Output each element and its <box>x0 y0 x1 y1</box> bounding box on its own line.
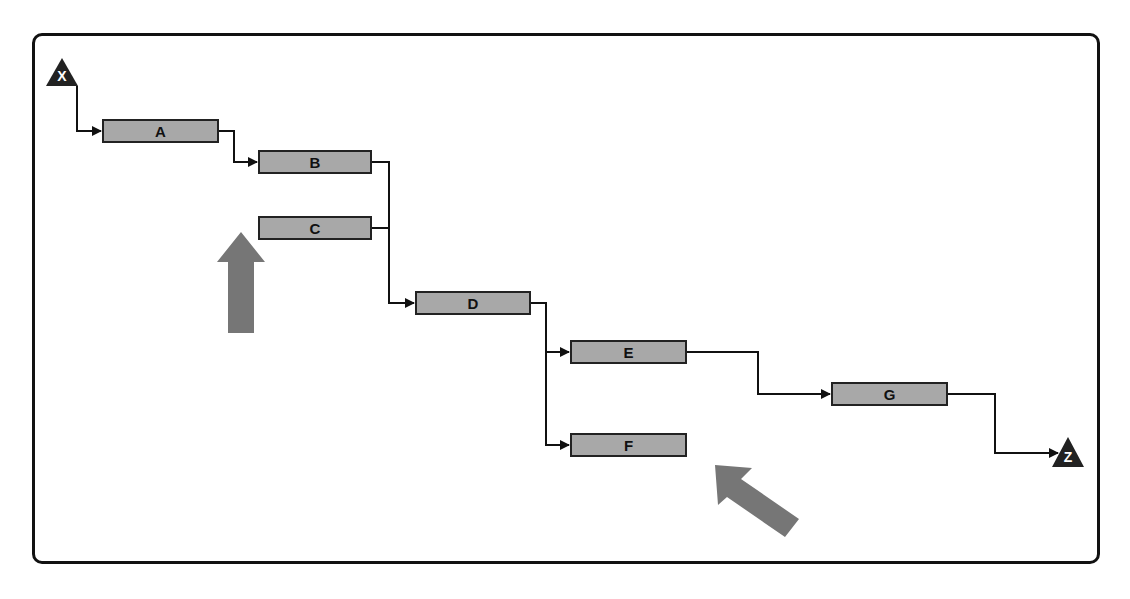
connectors-layer <box>0 0 1130 599</box>
activity-c[interactable]: C <box>258 216 372 240</box>
edge-d-e <box>531 303 569 352</box>
start-label: X <box>52 68 72 84</box>
edge-x-a <box>77 86 101 131</box>
edge-a-b <box>219 131 257 162</box>
edge-d-f <box>546 352 569 445</box>
activity-b[interactable]: B <box>258 150 372 174</box>
activity-a[interactable]: A <box>102 119 219 143</box>
activity-e[interactable]: E <box>570 340 687 364</box>
activity-d[interactable]: D <box>415 291 531 315</box>
diagonal-arrow-icon <box>715 465 799 537</box>
up-arrow-icon <box>217 232 265 333</box>
edge-b-d <box>372 162 414 303</box>
activity-f[interactable]: F <box>570 433 687 457</box>
edge-g-z <box>948 394 1058 453</box>
edge-e-g <box>687 352 830 394</box>
activity-g[interactable]: G <box>831 382 948 406</box>
end-label: Z <box>1058 449 1078 465</box>
